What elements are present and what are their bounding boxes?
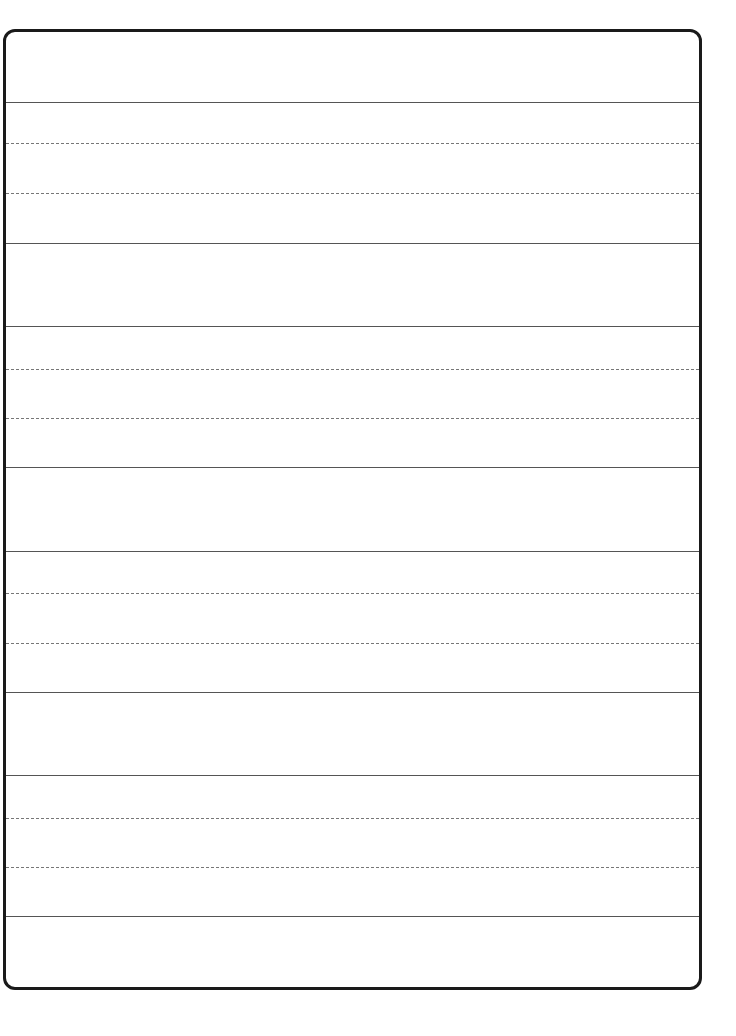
guide-line-1-mid1: [6, 143, 699, 144]
guide-line-2-bottom: [6, 467, 699, 468]
practice-sheet: [3, 29, 702, 990]
guide-line-2-top: [6, 326, 699, 327]
guide-line-3-bottom: [6, 692, 699, 693]
guide-line-2-mid2: [6, 418, 699, 419]
guide-line-4-mid2: [6, 867, 699, 868]
guide-line-4-top: [6, 775, 699, 776]
guide-line-1-mid2: [6, 193, 699, 194]
guide-line-3-mid2: [6, 643, 699, 644]
guide-line-1-top: [6, 102, 699, 103]
guide-line-1-bottom: [6, 243, 699, 244]
guide-line-3-top: [6, 551, 699, 552]
guide-line-4-mid1: [6, 818, 699, 819]
guide-line-2-mid1: [6, 369, 699, 370]
guide-line-4-bottom: [6, 916, 699, 917]
guide-line-3-mid1: [6, 593, 699, 594]
